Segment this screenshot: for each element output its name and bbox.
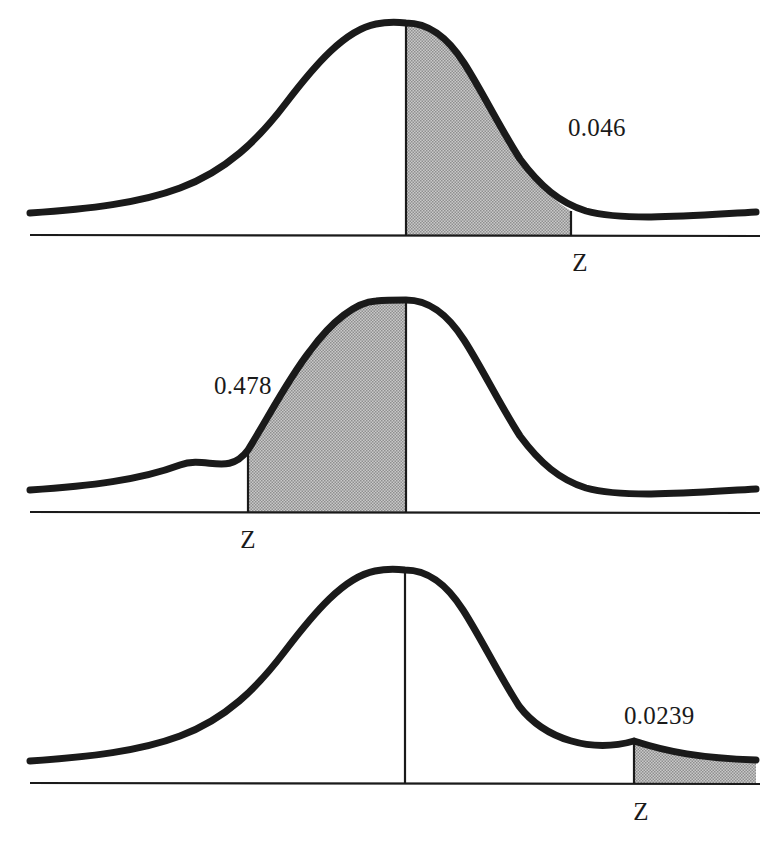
panel-2: 0.478 Z [30, 300, 760, 553]
normal-curves-svg: 0.046 Z 0.478 Z 0.0239 Z [0, 0, 779, 842]
panel-3-normal-curve [30, 569, 756, 761]
panel-2-area-label: 0.478 [214, 372, 272, 399]
panel-3-z-axis-label: Z [633, 798, 648, 825]
panel-1-normal-curve [30, 22, 756, 217]
panel-3: 0.0239 Z [30, 569, 760, 825]
panel-2-z-axis-label: Z [240, 526, 255, 553]
panel-1: 0.046 Z [30, 22, 760, 276]
panel-2-baseline-axis [30, 512, 760, 513]
panel-1-z-axis-label: Z [572, 249, 587, 276]
panel-3-area-label: 0.0239 [624, 702, 695, 729]
normal-distribution-figure: 0.046 Z 0.478 Z 0.0239 Z [0, 0, 779, 842]
panel-1-shaded-area [406, 23, 571, 235]
panel-1-baseline-axis [30, 235, 760, 236]
panel-3-baseline-axis [30, 783, 760, 784]
panel-1-area-label: 0.046 [568, 114, 626, 141]
